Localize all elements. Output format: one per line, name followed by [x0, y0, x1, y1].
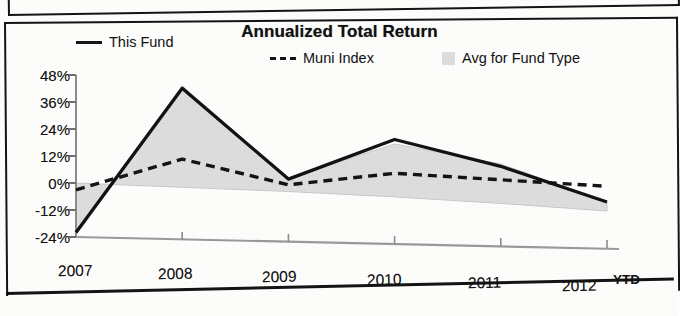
y-tick-marks [69, 75, 76, 237]
x-axis-line [76, 237, 619, 249]
